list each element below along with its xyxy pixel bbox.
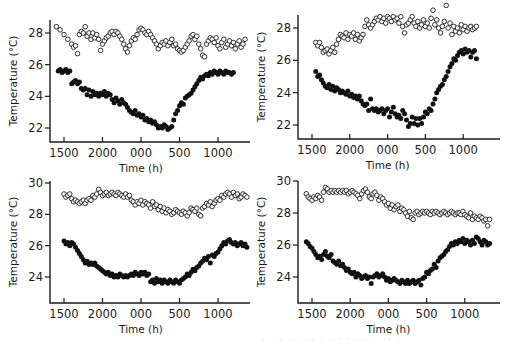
data-point [169,124,174,129]
x-tick-label: 1500 [297,307,326,321]
data-point [336,259,341,264]
data-point [133,108,138,113]
data-point [468,211,473,216]
x-tick-label: 500 [416,307,438,321]
x-axis-label: Time (h) [118,162,163,174]
data-point [411,217,416,222]
y-axis-label: Temperature (°C) [7,197,19,289]
data-point [173,42,178,47]
x-tick-label: 000 [130,146,152,160]
data-point [75,51,80,56]
y-tick-label: 26 [276,53,291,67]
data-point [197,42,202,47]
data-point [365,190,370,195]
data-point [418,283,423,288]
data-point [468,55,473,60]
figure-four-panel-temperature: 22242628150020000005001000Time (h)Temper… [0,0,506,348]
data-point [472,241,477,246]
data-point [357,93,362,98]
series-filled-circles [56,67,236,132]
y-tick-label: 22 [28,121,43,135]
data-point [83,24,88,29]
data-point [472,48,477,53]
data-point [187,211,192,216]
data-point [181,102,186,107]
data-point [127,193,132,198]
data-point [391,105,396,110]
data-point [125,50,130,55]
data-point [427,26,432,31]
data-point [222,37,227,42]
y-tick-label: 22 [276,118,291,132]
data-point [419,121,424,126]
x-tick-label: 000 [377,307,399,321]
data-point [361,32,366,37]
data-point [485,224,490,229]
x-tick-label: 1500 [49,307,78,321]
data-point [444,74,449,79]
data-point [444,3,449,8]
x-tick-label: 1000 [203,307,232,321]
data-point [77,80,82,85]
x-axis-label: Time (h) [118,323,163,335]
data-point [487,217,492,222]
data-point [446,69,451,74]
data-point [319,198,324,203]
data-point [442,19,447,24]
data-point [195,206,200,211]
data-point [231,70,236,75]
y-tick-label: 24 [28,89,43,103]
series-open-circles [54,24,247,59]
data-point [121,42,126,47]
data-point [429,16,434,21]
data-point [438,31,443,36]
y-tick-label: 24 [28,270,43,284]
data-point [434,265,439,270]
data-point [440,24,445,29]
y-tick-label: 28 [28,26,43,40]
x-tick-label: 1500 [297,143,326,157]
data-point [369,281,374,286]
series-filled-circles [304,235,492,288]
data-point [208,260,213,265]
data-point [332,50,337,55]
data-point [480,243,485,248]
data-point [66,37,71,42]
series-filled-circles [313,47,479,130]
x-tick-label: 000 [130,307,152,321]
data-point [241,42,246,47]
x-tick-label: 500 [169,146,191,160]
x-tick-label: 500 [169,307,191,321]
data-point [448,21,453,26]
data-point [383,21,388,26]
data-point [431,102,436,107]
data-point [317,40,322,45]
y-tick-label: 30 [276,174,291,188]
x-tick-label: 1000 [450,307,479,321]
data-point [398,116,403,121]
data-point [358,196,363,201]
data-point [68,192,73,197]
y-tick-label: 28 [276,206,291,220]
series-open-circles [314,3,479,56]
data-point [345,89,350,94]
panel-bottom-right: 24262830150020000005001000Time (h)Temper… [255,174,500,335]
data-point [73,43,78,48]
x-tick-label: 2000 [336,307,365,321]
data-point [195,34,200,39]
axis-lines [298,15,500,139]
y-tick-label: 26 [276,238,291,252]
x-axis-label: Time (h) [365,159,410,171]
data-point [62,32,67,37]
x-tick-label: 1500 [49,146,78,160]
data-point [133,37,138,42]
data-point [487,241,492,246]
y-axis-label: Temperature (°C) [255,32,267,124]
data-point [245,195,250,200]
x-tick-label: 1000 [449,143,478,157]
x-tick-label: 2000 [88,146,117,160]
data-point [385,106,390,111]
data-point [171,118,176,123]
panel-top-left: 22242628150020000005001000Time (h)Temper… [7,20,250,174]
x-tick-label: 1000 [203,146,232,160]
